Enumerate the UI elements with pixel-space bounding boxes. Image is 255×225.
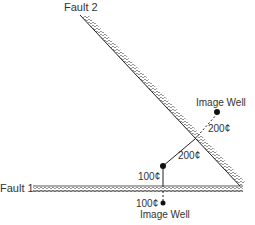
- distance-dashed-fault2-label: 200¢: [208, 124, 230, 134]
- fault-diagram: [0, 0, 255, 225]
- real-well-dot: [160, 163, 166, 169]
- image-well-top-dot: [214, 109, 220, 115]
- image-well-bottom-dot: [161, 201, 166, 206]
- fault-2-label: Fault 2: [64, 2, 98, 13]
- distance-solid-fault1-label: 100¢: [138, 172, 160, 182]
- fault-1-label: Fault 1: [0, 183, 34, 194]
- distance-solid-fault2-label: 200¢: [178, 151, 200, 161]
- image-well-top-label: Image Well: [196, 98, 246, 108]
- distance-dashed-fault1-label: 100¢: [136, 199, 158, 209]
- image-well-bottom-label: Image Well: [140, 210, 190, 220]
